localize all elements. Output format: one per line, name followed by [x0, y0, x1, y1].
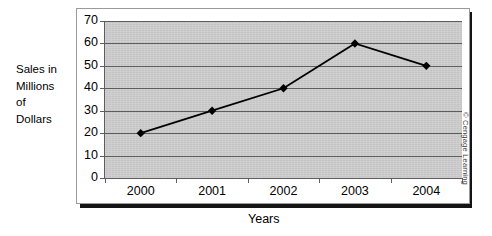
x-axis-title: Years: [248, 212, 280, 226]
y-tick-label: 50: [68, 58, 98, 72]
data-point-marker: [279, 84, 287, 92]
y-tick-label: 40: [68, 80, 98, 94]
x-tick-mark: [105, 178, 106, 183]
x-tick-label: 2004: [396, 184, 456, 198]
data-point-marker: [137, 129, 145, 137]
x-tick-mark: [176, 178, 177, 183]
y-tick-label: 20: [68, 125, 98, 139]
data-point-marker: [422, 62, 430, 70]
data-point-marker: [351, 39, 359, 47]
y-tick-label: 10: [68, 148, 98, 162]
y-tick-label: 30: [68, 103, 98, 117]
x-tick-mark: [391, 178, 392, 183]
y-tick-labels: 706050403020100: [66, 21, 98, 179]
x-tick-mark: [319, 178, 320, 183]
x-tick-mark: [248, 178, 249, 183]
figure-root: Sales in Millions of Dollars 70605040302…: [0, 0, 492, 236]
data-point-marker: [208, 107, 216, 115]
y-tick-label: 70: [68, 13, 98, 27]
sales-line-series: [105, 21, 462, 178]
x-tick-label: 2002: [254, 184, 314, 198]
y-tick-label: 0: [68, 170, 98, 184]
y-tick-label: 60: [68, 35, 98, 49]
x-tick-label: 2003: [325, 184, 385, 198]
x-tick-label: 2001: [182, 184, 242, 198]
x-axis-line: [104, 178, 462, 179]
copyright-credit: © Cengage Learning: [461, 112, 470, 185]
x-tick-label: 2000: [111, 184, 171, 198]
